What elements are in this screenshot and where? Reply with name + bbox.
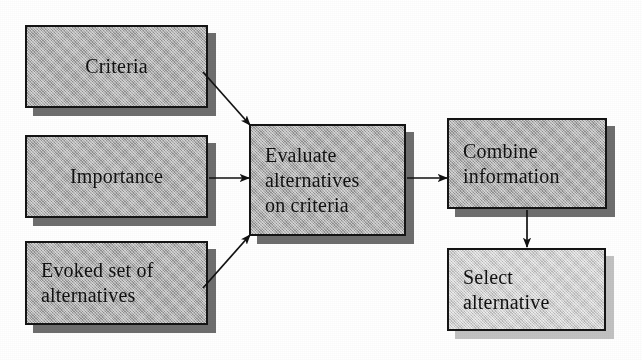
node-evoked-set[interactable]: Evoked set of alternatives [25,241,208,325]
node-label-criteria: Criteria [27,54,206,79]
node-importance[interactable]: Importance [25,135,208,218]
node-criteria[interactable]: Criteria [25,25,208,108]
node-select[interactable]: Select alternative [447,248,606,331]
node-label-importance: Importance [27,164,206,189]
node-evaluate[interactable]: Evaluate alternatives on criteria [249,124,406,236]
node-label-select: Select alternative [449,265,604,315]
flowchart-figure: Criteria Importance Evoked set of altern… [0,0,642,360]
node-label-evoked-set: Evoked set of alternatives [27,258,206,308]
node-label-combine: Combine information [449,139,605,189]
node-label-evaluate: Evaluate alternatives on criteria [251,143,404,218]
node-combine[interactable]: Combine information [447,118,607,209]
